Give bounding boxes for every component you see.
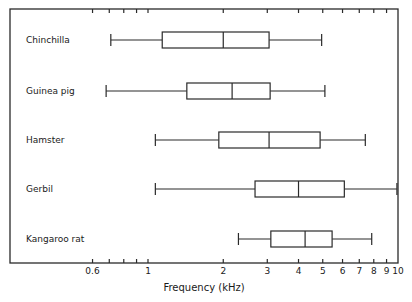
- x-tick-labels: 0.612345678910: [85, 266, 404, 276]
- x-tick-label: 3: [264, 266, 270, 276]
- category-label: Hamster: [26, 135, 65, 145]
- x-tick-label: 7: [356, 266, 362, 276]
- box-gerbil: [155, 181, 397, 197]
- boxplot-chart: 0.612345678910 ChinchillaGuinea pigHamst…: [0, 0, 412, 302]
- category-label: Chinchilla: [26, 35, 70, 45]
- category-label: Guinea pig: [26, 86, 75, 96]
- category-labels: ChinchillaGuinea pigHamsterGerbilKangaro…: [26, 35, 85, 244]
- box-chinchilla: [111, 32, 322, 48]
- x-tick-label: 4: [296, 266, 302, 276]
- box-hamster: [155, 132, 365, 148]
- box-series: [106, 32, 397, 247]
- x-tick-label: 9: [384, 266, 390, 276]
- x-tick-label: 5: [320, 266, 326, 276]
- x-tick-label: 8: [371, 266, 377, 276]
- box-kangaroo-rat: [238, 231, 371, 247]
- category-label: Kangaroo rat: [26, 234, 85, 244]
- x-axis-title: Frequency (kHz): [163, 282, 244, 293]
- x-tick-label: 1: [145, 266, 151, 276]
- box-guinea-pig: [106, 83, 325, 99]
- iqr-box: [162, 32, 269, 48]
- x-tick-label: 10: [392, 266, 404, 276]
- x-tick-label: 6: [340, 266, 346, 276]
- iqr-box: [271, 231, 332, 247]
- x-tick-label: 2: [220, 266, 226, 276]
- x-tick-label: 0.6: [85, 266, 100, 276]
- iqr-box: [255, 181, 344, 197]
- category-label: Gerbil: [26, 184, 53, 194]
- iqr-box: [187, 83, 270, 99]
